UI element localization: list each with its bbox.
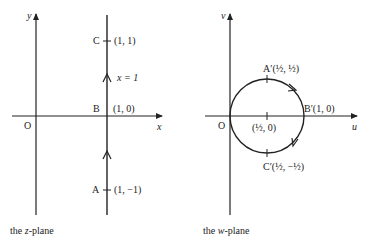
point-b-prime-label: B′(1, 0) [304,104,335,114]
point-a-prime-label: A′(½, ½) [263,64,299,74]
z-x-axis-label: x [157,122,161,132]
diagram-canvas [0,0,370,240]
point-b-coord: (1, 0) [113,104,135,114]
point-a-prime-coord: (½, ½) [272,63,299,74]
clockwise-arrow-icon [288,84,296,91]
point-c-prime-label: C′(½, −½) [263,162,304,172]
w-v-axis-label: v [221,11,225,21]
line-equation-label: x = 1 [117,73,138,83]
point-a-label: A [92,185,99,195]
w-origin-label: O [218,121,225,131]
w-plane [205,14,357,215]
z-plane-caption: the z-plane [10,225,54,236]
point-b-label: B [93,104,100,114]
point-b-prime-name: B′ [304,103,313,114]
z-origin-label: O [24,121,31,131]
w-plane-caption: the w-plane [203,225,249,236]
w-u-axis-label: u [352,122,357,132]
circle-center-label: (½, 0) [252,123,276,133]
point-c-prime-coord: (½, −½) [272,161,304,172]
caption-suffix: -plane [224,225,249,236]
caption-suffix: -plane [29,225,54,236]
point-c-coord: (1, 1) [114,36,136,46]
point-c-label: C [93,36,100,46]
point-b-prime-coord: (1, 0) [313,103,335,114]
caption-prefix: the [10,225,25,236]
point-a-coord: (1, −1) [114,185,141,195]
point-a-prime-name: A′ [263,63,272,74]
z-y-axis-label: y [27,11,31,21]
caption-prefix: the [203,225,218,236]
point-c-prime-name: C′ [263,161,272,172]
